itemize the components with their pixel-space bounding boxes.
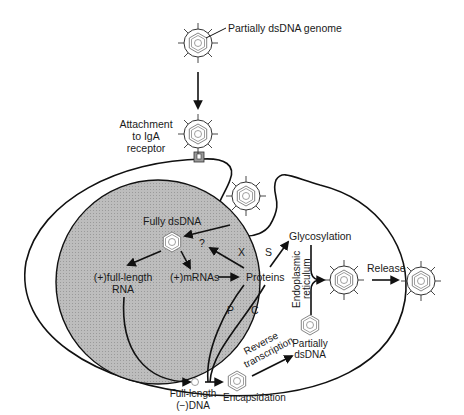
question-label: ? — [199, 237, 205, 249]
s-protein-arrow — [270, 242, 288, 267]
fully-dsdna-label: Fully dsDNA — [143, 215, 201, 227]
leader-line — [206, 28, 226, 38]
pregenome-icon — [192, 379, 199, 386]
attachment-label: Attachment — [119, 118, 172, 130]
endocytosed-virion-icon — [226, 176, 266, 216]
er-lower-line — [311, 280, 318, 315]
virion-icon — [178, 23, 218, 63]
mature-virion-icon — [324, 260, 364, 300]
released-virion-icon — [401, 261, 441, 301]
partially-dsdna-genome-label: Partially dsDNA genome — [228, 22, 342, 34]
cccdna-icon — [163, 232, 180, 252]
partially-dsdna-label-2: dsDNA — [294, 349, 326, 360]
proteins-label: Proteins — [246, 271, 285, 283]
nucleus — [56, 180, 260, 384]
full-length-rna-label: (+)full-length — [94, 271, 153, 283]
full-length-dna-label: Full-length — [170, 388, 217, 399]
attached-virion-icon — [178, 114, 218, 154]
full-length-dna-label-2: (−)DNA — [176, 400, 210, 411]
full-length-rna-label-2: RNA — [112, 283, 134, 295]
hbv-replication-diagram: Partially dsDNA genome Attachment to IgA… — [0, 0, 464, 415]
x-label: X — [238, 246, 245, 258]
er-label-2: reticulum — [301, 258, 312, 299]
s-label: S — [265, 246, 272, 258]
attachment-label-2: to IgA — [132, 130, 159, 142]
encapsidation-label: Encapsidation — [223, 392, 286, 403]
core-particle-icon — [228, 371, 245, 391]
mrnas-label: (+)mRNAs — [170, 271, 219, 283]
p-label: P — [227, 304, 234, 316]
er-upper-line — [311, 245, 318, 280]
attachment-label-3: receptor — [127, 142, 166, 154]
release-label: Release — [367, 262, 406, 274]
glycosylation-label: Glycosylation — [289, 230, 352, 242]
partially-dsdna-capsid-icon — [301, 315, 318, 335]
partially-dsdna-label: Partially — [292, 338, 328, 349]
c-label: C — [251, 304, 259, 316]
